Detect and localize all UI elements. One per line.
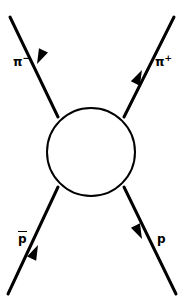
label-pi-minus-symbol: π: [13, 55, 23, 69]
label-p-bar: p: [18, 233, 27, 245]
label-pi-plus-charge: +: [165, 53, 173, 63]
label-pi-minus: π−: [13, 56, 30, 68]
label-pi-plus-symbol: π: [155, 55, 165, 69]
leg-p-line: [124, 187, 176, 294]
label-p-symbol: p: [157, 232, 166, 246]
label-p: p: [157, 233, 166, 245]
label-p-bar-symbol: p: [18, 233, 27, 245]
diagram-svg: [0, 0, 184, 308]
leg-p-bar-line: [8, 187, 58, 294]
arrowhead-pi-minus-icon: [32, 48, 47, 66]
interaction-blob: [47, 108, 135, 196]
label-pi-minus-charge: −: [23, 53, 31, 63]
label-pi-plus: π+: [155, 56, 172, 68]
feynman-diagram-canvas: π− π+ p p: [0, 0, 184, 308]
